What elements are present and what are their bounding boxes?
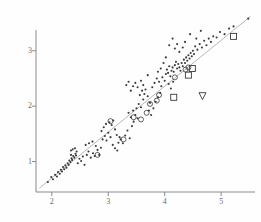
data-point bbox=[73, 157, 75, 159]
data-point bbox=[196, 49, 198, 51]
data-point-highlight-square bbox=[185, 72, 191, 78]
data-point bbox=[61, 170, 63, 172]
data-point bbox=[135, 107, 137, 109]
data-point bbox=[173, 71, 175, 73]
data-point bbox=[139, 94, 141, 96]
data-point bbox=[59, 173, 61, 175]
data-point bbox=[178, 66, 180, 68]
data-point bbox=[132, 110, 134, 112]
data-point bbox=[185, 56, 187, 58]
data-point bbox=[187, 54, 189, 56]
data-point bbox=[62, 166, 64, 168]
data-point bbox=[166, 69, 168, 71]
data-point bbox=[172, 38, 174, 40]
data-point bbox=[167, 72, 169, 74]
data-point bbox=[147, 95, 149, 97]
data-point bbox=[175, 61, 177, 63]
data-point bbox=[149, 102, 151, 104]
data-point bbox=[128, 81, 130, 83]
data-point bbox=[182, 46, 184, 48]
data-point bbox=[75, 154, 77, 156]
data-point bbox=[105, 123, 107, 125]
open-triangle-group bbox=[199, 93, 206, 100]
data-point bbox=[106, 139, 108, 141]
data-point bbox=[170, 87, 172, 89]
data-point bbox=[156, 77, 158, 79]
data-point bbox=[116, 134, 118, 136]
data-point bbox=[114, 128, 116, 130]
data-point bbox=[125, 84, 127, 86]
data-point bbox=[74, 147, 76, 149]
data-point bbox=[168, 44, 170, 46]
data-point bbox=[52, 178, 54, 180]
data-point-highlight-square bbox=[231, 33, 237, 39]
data-point-highlight-circle bbox=[108, 119, 113, 124]
data-point bbox=[177, 63, 179, 65]
data-point bbox=[80, 160, 82, 162]
data-point bbox=[90, 157, 92, 159]
data-point bbox=[131, 125, 133, 127]
data-point bbox=[233, 25, 235, 27]
y-axis-tick-label: 3 bbox=[22, 47, 32, 55]
data-point bbox=[57, 171, 59, 173]
plot-canvas bbox=[0, 0, 261, 222]
data-point bbox=[193, 53, 195, 55]
data-point bbox=[114, 147, 116, 149]
data-point-highlight-circle bbox=[121, 137, 126, 142]
data-point-highlight-circle bbox=[154, 98, 159, 103]
data-point bbox=[160, 85, 162, 87]
data-point bbox=[168, 65, 170, 67]
data-point bbox=[88, 142, 90, 144]
data-point bbox=[191, 55, 193, 57]
data-point bbox=[111, 124, 113, 126]
data-point bbox=[100, 130, 102, 132]
data-point bbox=[142, 98, 144, 100]
data-point bbox=[117, 142, 119, 144]
data-point bbox=[163, 62, 165, 64]
data-point bbox=[186, 60, 188, 62]
data-point bbox=[65, 167, 67, 169]
data-point bbox=[50, 176, 52, 178]
data-point bbox=[192, 50, 194, 52]
data-point bbox=[83, 164, 85, 166]
data-point bbox=[92, 152, 94, 154]
data-point bbox=[153, 82, 155, 84]
data-point bbox=[183, 59, 185, 61]
data-point bbox=[82, 156, 84, 158]
data-point bbox=[228, 28, 230, 30]
data-point bbox=[200, 30, 202, 32]
data-point bbox=[103, 126, 105, 128]
data-point bbox=[87, 151, 89, 153]
data-point bbox=[140, 106, 142, 108]
data-point bbox=[172, 81, 174, 83]
data-point bbox=[126, 129, 128, 131]
data-point bbox=[56, 175, 58, 177]
data-point bbox=[54, 174, 56, 176]
data-point bbox=[122, 142, 124, 144]
data-point bbox=[157, 71, 159, 73]
data-point bbox=[195, 38, 197, 40]
data-point bbox=[91, 141, 93, 143]
data-point bbox=[142, 84, 144, 86]
data-point bbox=[219, 31, 221, 33]
data-point bbox=[124, 134, 126, 136]
data-point bbox=[128, 112, 130, 114]
data-point-highlight-square bbox=[171, 94, 177, 100]
data-point-highlight-circle bbox=[157, 93, 162, 98]
data-point-highlight-circle bbox=[144, 110, 149, 115]
data-point-highlight-triangle bbox=[199, 93, 206, 100]
data-point bbox=[63, 168, 65, 170]
data-point bbox=[102, 138, 104, 140]
data-point bbox=[188, 57, 190, 59]
data-point bbox=[140, 80, 142, 82]
data-point bbox=[47, 181, 49, 183]
data-point bbox=[181, 62, 183, 64]
data-point bbox=[95, 145, 97, 147]
data-point bbox=[132, 85, 134, 87]
data-point bbox=[69, 161, 71, 163]
data-point-highlight-circle bbox=[138, 117, 143, 122]
data-point bbox=[68, 164, 70, 166]
data-point bbox=[182, 65, 184, 67]
data-point bbox=[141, 90, 143, 92]
data-point bbox=[174, 64, 176, 66]
